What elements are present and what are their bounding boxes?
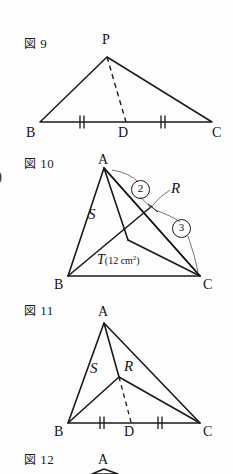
figure-12-drawing xyxy=(0,0,233,474)
textbook-page: ) 図 9 P B D C 図 10 xyxy=(0,0,233,474)
fig12-partial-triangle xyxy=(92,469,118,474)
